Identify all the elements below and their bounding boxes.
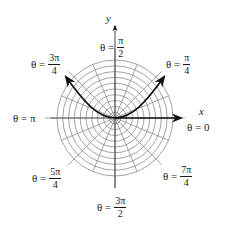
label-prefix: θ =	[100, 42, 114, 53]
label-value: 0	[204, 122, 210, 133]
numerator: π	[117, 36, 124, 48]
angle-label-3pi-over-2: θ = 3π2	[97, 196, 126, 219]
label-prefix: θ =	[32, 173, 46, 184]
fraction: 5π4	[49, 167, 61, 190]
angle-label-pi: θ = π	[13, 113, 36, 124]
fraction: 7π4	[180, 165, 192, 188]
label-prefix: θ =	[97, 202, 111, 213]
numerator: 7π	[180, 165, 192, 177]
denominator: 4	[53, 179, 58, 190]
fraction: π4	[183, 53, 190, 76]
denominator: 2	[118, 208, 123, 219]
fraction: π2	[117, 36, 124, 59]
fraction: 3π4	[48, 53, 60, 76]
label-prefix: θ =	[166, 59, 180, 70]
angle-label-pi-over-4: θ = π4	[166, 53, 190, 76]
label-prefix: θ =	[13, 113, 27, 124]
denominator: 4	[184, 177, 189, 188]
angle-label-pi-over-2: θ = π2	[100, 36, 124, 59]
y-axis-label: y	[106, 13, 111, 24]
denominator: 4	[184, 65, 189, 76]
label-prefix: θ =	[163, 171, 177, 182]
label-prefix: θ =	[31, 59, 45, 70]
angle-label-3pi-over-4: θ = 3π4	[31, 53, 60, 76]
fraction: 3π2	[114, 196, 126, 219]
label-value: π	[30, 113, 36, 124]
numerator: 3π	[48, 53, 60, 65]
numerator: 3π	[114, 196, 126, 208]
angle-label-0: θ = 0	[187, 122, 209, 133]
denominator: 4	[52, 65, 57, 76]
numerator: 5π	[49, 167, 61, 179]
angle-label-7pi-over-4: θ = 7π4	[163, 165, 192, 188]
x-axis-label: x	[199, 106, 204, 117]
label-prefix: θ =	[187, 122, 201, 133]
angle-label-5pi-over-4: θ = 5π4	[32, 167, 61, 190]
numerator: π	[183, 53, 190, 65]
denominator: 2	[118, 48, 123, 59]
